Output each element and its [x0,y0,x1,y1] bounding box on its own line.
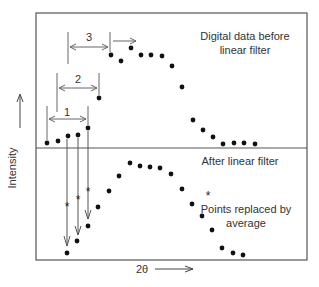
data-point [138,164,143,169]
data-point [119,59,124,64]
data-point [66,134,71,139]
data-point [109,53,114,58]
data-point [96,205,101,210]
svg-text:*: * [86,185,91,199]
data-point [180,187,185,192]
data-point [86,126,91,131]
data-point [253,142,258,147]
data-point [211,135,216,140]
window-label-1: 1 [64,106,70,118]
data-point [232,141,237,146]
data-point [97,96,102,101]
data-point [107,189,112,194]
data-point [129,46,134,51]
svg-text:*: * [206,189,211,203]
svg-text:*: * [76,193,81,207]
data-point [169,172,174,177]
data-point [86,224,91,229]
svg-text:*: * [65,200,70,214]
top-panel-title-line1: Digital data before [180,30,310,42]
bottom-panel-title: After linear filter [170,155,310,167]
x-axis-label: 2θ [136,263,148,275]
data-point [149,53,154,58]
data-point [75,239,80,244]
window-label-2: 2 [75,73,81,85]
legend-line2: average [190,217,302,229]
top-panel-title-line2: linear filter [180,44,310,56]
data-point [128,161,133,166]
data-point [148,165,153,170]
filter-windows [47,32,136,140]
data-point [160,54,165,59]
data-point [220,246,225,251]
data-point [170,64,175,69]
data-point [221,142,226,147]
y-axis-label: Intensity [6,148,18,189]
data-point [180,85,185,90]
data-point [45,141,50,146]
average-markers: * * * * [65,185,211,214]
data-point [139,53,144,58]
data-point [191,118,196,123]
data-point [201,128,206,133]
window-label-3: 3 [86,31,92,43]
data-point [56,139,61,144]
data-point [65,251,70,256]
data-point [242,141,247,146]
data-point [241,253,246,258]
data-point [158,166,163,171]
data-point [76,133,81,138]
data-point [117,174,122,179]
data-point [231,251,236,256]
top-data-points [45,46,258,147]
legend-line1: Points replaced by [190,203,302,215]
